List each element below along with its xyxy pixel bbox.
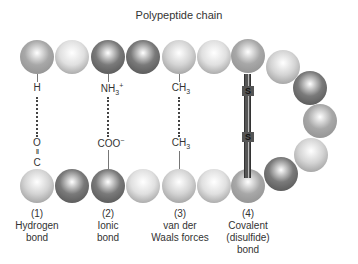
sulfur-top-label: S [242,86,254,96]
nh-charge: + [119,82,123,89]
bottom-bead-amino-acid [55,169,89,203]
caption-number: (1) [0,208,77,220]
h-side-chain-stub [37,74,38,82]
methyl-top-label: CH3 [161,82,201,95]
caption-line2: bond [68,232,148,244]
caption-line1: Ionic [68,220,148,232]
coo-side-chain-stub [108,150,109,169]
coo-charge: − [120,137,124,144]
top-bead-amino-acid [162,40,196,74]
top-bead-amino-acid [20,40,54,74]
ch-bottom-text: CH [172,137,186,148]
bottom-bead-amino-acid [20,169,54,203]
ch-top-subscript: 3 [186,88,190,95]
ch-bottom-subscript: 3 [186,143,190,150]
caption-ionic-bond: (2) Ionic bond [68,208,148,244]
curve-bead-amino-acid [303,104,337,138]
caption-hydrogen-bond: (1) Hydrogen bond [0,208,77,244]
top-bead-amino-acid [91,40,125,74]
caption-line2: (disulfide) [208,232,288,244]
curve-bead-amino-acid [294,138,328,172]
top-bead-amino-acid [126,40,160,74]
van-der-waals-dotted-line [178,97,180,137]
ammonium-group-label: NH3+ [87,82,137,96]
hydrogen-bond-dotted-line [36,97,38,137]
bottom-bead-amino-acid [162,169,196,203]
caption-covalent-disulfide-bond: (4) Covalent (disulfide) bond [208,208,288,256]
double-bond-symbol: II [17,147,57,156]
curve-bead-amino-acid [264,157,298,191]
bottom-bead-amino-acid [126,169,160,203]
sulfur-bottom-label: S [242,132,254,142]
caption-line1: Hydrogen [0,220,77,232]
ch3-top-side-chain-stub [179,74,180,82]
nh-subscript: 3 [115,89,119,96]
ionic-bond-dotted-line [107,97,109,137]
caption-line2: bond [0,232,77,244]
curve-bead-amino-acid [293,71,327,105]
methyl-bottom-label: CH3 [161,137,201,150]
caption-number: (2) [68,208,148,220]
hydrogen-atom-label: H [17,82,57,93]
nh-text: NH [101,83,115,94]
caption-line1: Covalent [208,220,288,232]
diagram-title: Polypeptide chain [0,9,358,21]
top-bead-amino-acid [231,39,265,73]
top-bead-amino-acid [197,40,231,74]
carboxylate-group-label: COO− [86,137,136,149]
ch-top-text: CH [172,82,186,93]
coo-text: COO [98,138,121,149]
top-bead-amino-acid [55,40,89,74]
caption-line3: bond [208,244,288,256]
nh3-side-chain-stub [108,74,109,82]
bottom-bead-amino-acid [197,169,231,203]
caption-number: (4) [208,208,288,220]
ch3-bottom-side-chain-stub [179,151,180,169]
carbon-atom-label: C [17,157,57,168]
bottom-bead-amino-acid [91,169,125,203]
